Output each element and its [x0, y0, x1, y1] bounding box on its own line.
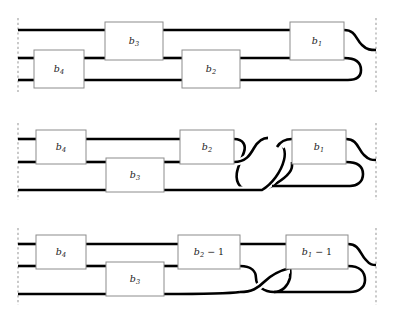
strand-segment: [164, 292, 240, 294]
box-r2-b3: b3: [106, 158, 164, 192]
row-3-group: b4 b3 b2 − 1 b1 − 1: [18, 228, 376, 305]
box-r3-b1-minus-1: b1 − 1: [286, 235, 348, 269]
strand-segment-right-loop: [240, 58, 361, 80]
box-r3-b2-minus-1: b2 − 1: [178, 235, 240, 269]
row-1-group: b4 b3 b2 b1: [18, 18, 376, 92]
box-label-b1-minus-1: b1 − 1: [302, 246, 332, 259]
box-r3-b4: b4: [36, 235, 86, 269]
box-r2-b1: b1: [292, 130, 346, 164]
box-r1-b3: b3: [105, 22, 163, 60]
braid-diagram-figure: b4 b3 b2 b1: [0, 0, 395, 315]
strand-segment-exit-top: [344, 30, 376, 50]
box-r1-b4: b4: [34, 50, 84, 88]
box-r2-b2: b2: [180, 130, 234, 164]
strand-segment-exit-top: [348, 244, 376, 265]
box-r1-b1: b1: [290, 22, 344, 60]
box-r1-b2: b2: [182, 50, 240, 88]
box-r2-b4: b4: [36, 130, 86, 164]
box-label-b2-minus-1: b2 − 1: [194, 246, 224, 259]
strand-segment-exit-top: [346, 139, 376, 160]
tangle-diagram-canvas: b4 b3 b2 b1: [0, 0, 395, 315]
box-r3-b3: b3: [106, 262, 164, 296]
row-2-group: b4 b3 b2 b1: [18, 123, 376, 200]
